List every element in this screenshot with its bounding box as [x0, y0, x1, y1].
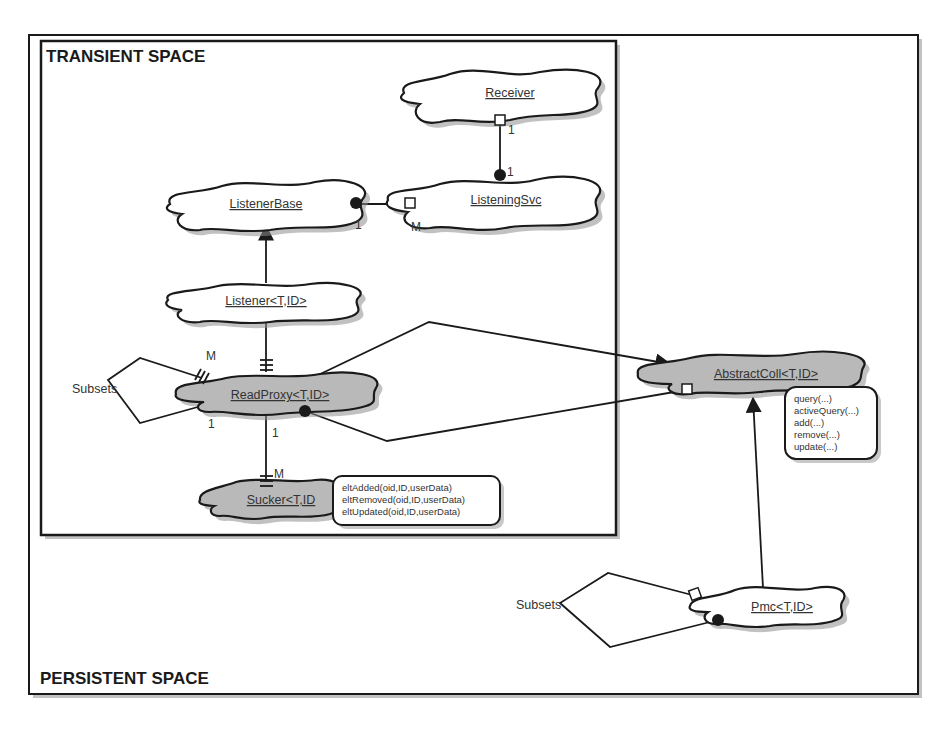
abstractcoll-methods-note: query(...) activeQuery(...) add(...) rem…: [785, 387, 881, 463]
class-listener[interactable]: Listener<T,ID>: [166, 283, 365, 328]
receiver-label: Receiver: [485, 86, 534, 100]
sucker-method-1: eltRemoved(oid,ID,userData): [342, 494, 465, 505]
abstractcoll-aggregation-square-icon: [682, 384, 692, 394]
abstractcoll-method-2: add(...): [794, 417, 824, 428]
listeningsvc-filled-dot-icon: [494, 169, 506, 181]
readproxy-label: ReadProxy<T,ID>: [231, 388, 330, 402]
readproxy-subsets-label: Subsets: [72, 382, 117, 396]
listenerbase-label: ListenerBase: [230, 197, 303, 211]
sucker-method-2: eltUpdated(oid,ID,userData): [342, 506, 460, 517]
pmc-subsets-label: Subsets: [516, 598, 561, 612]
sucker-label: Sucker<T,ID: [247, 493, 315, 507]
readproxy-subsets-1-multiplicity: 1: [208, 417, 215, 431]
abstractcoll-method-1: activeQuery(...): [794, 405, 859, 416]
pmc-label: Pmc<T,ID>: [751, 600, 813, 614]
abstractcoll-method-3: remove(...): [794, 429, 840, 440]
pmc-filled-dot-icon: [712, 614, 724, 626]
class-diagram: PERSISTENT SPACE TRANSIENT SPACE Receive…: [0, 0, 947, 733]
abstractcoll-method-0: query(...): [794, 393, 832, 404]
readproxy-subsets-m-multiplicity: M: [206, 349, 216, 363]
transient-space-label: TRANSIENT SPACE: [46, 47, 205, 66]
listeningsvc-m-multiplicity: M: [411, 220, 421, 234]
listener-label: Listener<T,ID>: [225, 294, 306, 308]
listeningsvc-label: ListeningSvc: [471, 193, 542, 207]
readproxy-sucker-1-multiplicity: 1: [272, 426, 279, 440]
receiver-aggregation-square-icon: [495, 115, 505, 125]
listenerbase-multiplicity: 1: [355, 218, 362, 232]
readproxy-filled-dot-icon: [299, 405, 311, 417]
abstractcoll-method-4: update(...): [794, 441, 837, 452]
receiver-multiplicity: 1: [508, 123, 515, 137]
listeningsvc-multiplicity: 1: [507, 165, 514, 179]
sucker-m-multiplicity: M: [274, 467, 284, 481]
sucker-method-0: eltAdded(oid,ID,userData): [342, 482, 452, 493]
sucker-methods-note: eltAdded(oid,ID,userData) eltRemoved(oid…: [333, 476, 504, 529]
persistent-space-label: PERSISTENT SPACE: [40, 669, 209, 688]
listenerbase-filled-dot-icon: [350, 197, 362, 209]
pmc-aggregation-square-icon: [689, 588, 702, 601]
listeningsvc-aggregation-square-icon: [405, 198, 415, 208]
abstractcoll-label: AbstractColl<T,ID>: [714, 367, 818, 381]
